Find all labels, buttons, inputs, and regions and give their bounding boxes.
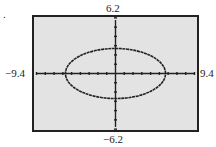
plot-area	[0, 0, 216, 147]
